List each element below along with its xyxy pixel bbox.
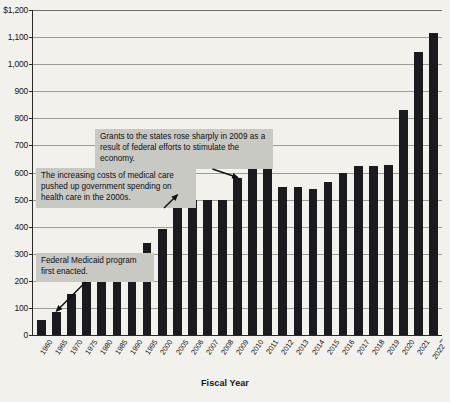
annotation-arrow xyxy=(164,195,177,208)
annotation-arrows xyxy=(0,0,450,402)
bar-chart: $1,2001,1001,000900800700600500400300200… xyxy=(0,0,450,402)
annotation-arrow xyxy=(57,282,86,311)
annotation-arrow xyxy=(212,169,237,178)
